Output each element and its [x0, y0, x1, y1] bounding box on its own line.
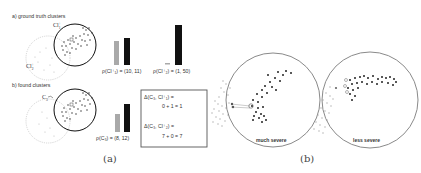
panel-a: a) ground truth clusters Cl+1 Cl+2 [12, 13, 207, 164]
bar-c3-label: ρ(C₃) = (8, 12) [96, 135, 129, 141]
found-cluster-marker [70, 103, 73, 106]
delta-line-3: Δ(C₃, Cl⁺₂) = [144, 123, 174, 129]
delta-line-1: Δ(C₃, Cl⁺₁) = [144, 94, 174, 100]
less-severe-highlight-1 [345, 79, 348, 82]
less-severe-highlight-3 [346, 91, 349, 94]
found-cluster-solid-circle [54, 89, 96, 131]
caption-a: (a) [103, 153, 117, 164]
cluster-1-circle [54, 24, 96, 66]
less-severe-outlier-1 [335, 87, 337, 89]
bar-c3-black [124, 104, 130, 132]
caption-b: (b) [300, 153, 314, 164]
found-cluster-points [61, 92, 92, 121]
less-severe-highlight-2 [344, 85, 347, 88]
cluster-2-label: Cl+2 [26, 63, 34, 71]
section-a-title: a) ground truth clusters [12, 13, 66, 19]
less-severe-label: less severe [353, 137, 380, 143]
much-severe-inside-points [251, 70, 292, 123]
bar-cl1-black [124, 38, 130, 65]
found-cluster-light-points [38, 111, 54, 136]
cluster-2-circle [26, 36, 70, 80]
bar-c3-gray [115, 114, 120, 132]
delta-line-2: 0 + 1 = 1 [162, 103, 183, 109]
cluster-1-points [61, 27, 92, 55]
much-severe-outlier-1 [231, 103, 233, 105]
bar-pair-1-label: ρ(Cl⁺₁) = (10, 11) [102, 68, 142, 74]
less-severe-inside-points [347, 75, 397, 101]
much-severe-link-1 [231, 104, 250, 106]
found-cluster-arrow-icon [48, 96, 53, 98]
section-b-title: b) found clusters [12, 82, 51, 88]
cluster-2-points [34, 47, 54, 72]
much-severe-circle [226, 53, 320, 147]
delta-line-4: 7 + 0 = 7 [162, 133, 183, 139]
much-severe-outlier-2 [232, 106, 234, 108]
much-severe-label: much severe [256, 137, 287, 143]
figure-canvas: a) ground truth clusters Cl+1 Cl+2 [0, 0, 421, 173]
cluster-1-marker [70, 38, 73, 41]
bar-cl2-black [175, 25, 182, 65]
bar-cl2-gray [165, 63, 170, 65]
less-severe-circle [322, 52, 418, 148]
cluster-1-label: Cl+1 [53, 22, 61, 30]
bar-cl1-gray [114, 41, 119, 65]
found-cluster-dashed-circle [26, 99, 70, 143]
found-cluster-label: C3 [42, 94, 48, 102]
bar-pair-2-label: ρ(Cl⁺₂) = (1, 50) [153, 68, 190, 74]
panel-b: much severe less severe [211, 52, 418, 164]
